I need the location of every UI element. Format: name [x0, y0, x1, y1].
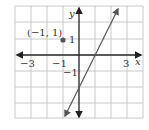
tick-label-x-neg3: −3	[20, 58, 35, 69]
tick-label-y-1: 1	[69, 34, 75, 45]
tick-label-x-neg1: −1	[52, 58, 67, 69]
x-axis-label: x	[135, 56, 141, 67]
point-label: (−1, 1)	[27, 27, 62, 38]
point-marker	[60, 37, 65, 42]
coordinate-plane: (−1, 1) y x 1 −1 −3 −1 3	[0, 0, 149, 130]
y-axis-label: y	[68, 8, 75, 19]
tick-label-x-3: 3	[123, 58, 129, 69]
graph-line	[65, 9, 118, 116]
